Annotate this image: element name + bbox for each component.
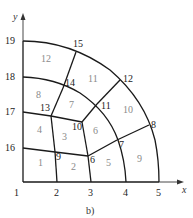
mesh-edge (117, 125, 149, 140)
node-label: 5 (156, 187, 161, 198)
node-label: 4 (123, 187, 128, 198)
y-axis-arrow-icon (21, 13, 26, 20)
element-label: 11 (88, 73, 98, 84)
node-label: 7 (119, 139, 124, 150)
element-label: 7 (69, 99, 74, 110)
mesh-edge (23, 148, 55, 152)
element-label: 5 (106, 157, 111, 168)
element-label: 2 (71, 161, 76, 172)
node-label: 14 (65, 77, 75, 88)
element-label: 3 (62, 131, 67, 142)
mesh-edge (82, 122, 88, 156)
figure-caption: b) (86, 205, 94, 217)
node-label: 3 (88, 187, 93, 198)
mesh-edge (51, 116, 55, 152)
node-label: 11 (101, 100, 111, 111)
element-label: 4 (37, 124, 42, 135)
mesh-edge (51, 88, 63, 116)
element-label: 6 (93, 125, 98, 136)
node-label: 9 (56, 151, 61, 162)
element-label: 8 (36, 89, 41, 100)
mesh-edge (82, 104, 97, 122)
element-label: 9 (137, 153, 142, 164)
node-label: 19 (5, 35, 15, 46)
node-label: 18 (5, 71, 15, 82)
y-axis-label: y (12, 11, 18, 22)
finite-element-mesh-diagram: x y 12345678910111213141516171819 123456… (0, 0, 193, 218)
node-label: 10 (72, 121, 82, 132)
node-labels: 12345678910111213141516171819 (5, 35, 161, 198)
node-label: 8 (151, 119, 156, 130)
node-label: 12 (123, 73, 133, 84)
element-label: 1 (38, 157, 43, 168)
node-label: 15 (73, 38, 83, 49)
node-label: 6 (90, 154, 95, 165)
element-label: 12 (41, 53, 51, 64)
node-label: 17 (5, 106, 15, 117)
x-axis-label: x (181, 184, 187, 195)
node-label: 16 (5, 142, 15, 153)
element-label: 10 (123, 104, 133, 115)
node-label: 2 (54, 187, 59, 198)
node-label: 1 (14, 187, 19, 198)
node-label: 13 (40, 102, 50, 113)
